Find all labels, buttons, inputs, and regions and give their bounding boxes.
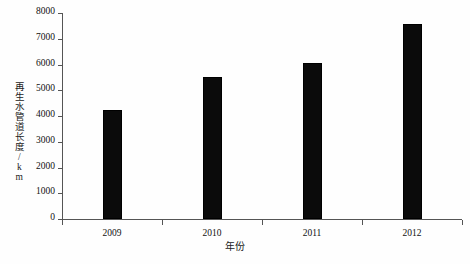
y-tick-mark (58, 142, 63, 143)
x-tick-label: 2012 (403, 228, 422, 238)
x-tick-mark (462, 220, 463, 225)
x-axis-title: 年份 (0, 238, 470, 253)
plot-area: 010002000300040005000600070008000 200920… (62, 13, 462, 220)
bar (203, 77, 222, 219)
x-tick-mark (162, 220, 163, 225)
y-tick-label: 3000 (36, 135, 55, 145)
x-tick-label: 2011 (303, 228, 322, 238)
y-tick-label: 0 (50, 212, 55, 222)
x-tick-label: 2010 (203, 228, 222, 238)
bar (403, 24, 422, 219)
x-tick-mark (62, 220, 63, 225)
y-tick-label: 6000 (36, 58, 55, 68)
y-axis-title: 再生水管道长度/km (11, 62, 27, 202)
y-tick-mark (58, 90, 63, 91)
y-tick-label: 5000 (36, 83, 55, 93)
bar-chart: 再生水管道长度/km 01000200030004000500060007000… (0, 0, 470, 264)
bar (303, 63, 322, 219)
y-tick-label: 4000 (36, 109, 55, 119)
y-tick-label: 1000 (36, 186, 55, 196)
x-tick-mark (362, 220, 363, 225)
y-tick-label: 2000 (36, 161, 55, 171)
bar (103, 110, 122, 219)
x-tick-mark (262, 220, 263, 225)
y-tick-mark (58, 39, 63, 40)
y-tick-mark (58, 168, 63, 169)
y-tick-mark (58, 193, 63, 194)
y-tick-label: 7000 (36, 32, 55, 42)
y-tick-mark (58, 13, 63, 14)
y-tick-label: 8000 (36, 6, 55, 16)
x-tick-label: 2009 (103, 228, 122, 238)
y-tick-mark (58, 65, 63, 66)
y-tick-mark (58, 116, 63, 117)
